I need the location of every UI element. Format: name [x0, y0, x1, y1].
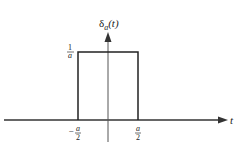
x-axis-label: t [230, 114, 234, 126]
x-axis-arrow-icon [218, 117, 228, 124]
left-tick-sign: − [68, 126, 73, 136]
left-tick-den: 2 [76, 133, 80, 142]
y-axis-label: δa(t) [99, 17, 119, 32]
pulse-diagram: δa(t) 1 a t − a 2 a 2 [0, 0, 238, 160]
right-tick-den: 2 [136, 133, 140, 142]
y-axis-arrow-icon [105, 32, 112, 42]
height-label-den: a [68, 51, 72, 60]
left-tick-num: a [76, 124, 80, 133]
right-tick-num: a [136, 124, 140, 133]
